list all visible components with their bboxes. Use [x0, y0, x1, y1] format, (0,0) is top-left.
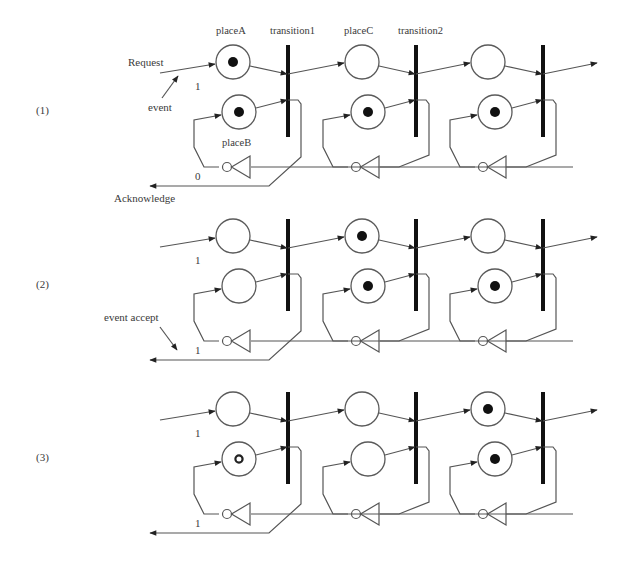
arc-transition-output	[288, 410, 344, 421]
arc-lower-to-transition	[512, 447, 542, 455]
upper-place	[345, 45, 379, 79]
stage-2: (2)11	[36, 219, 597, 360]
inverter-bubble	[223, 337, 232, 346]
stage-label: (2)	[36, 278, 49, 291]
arc-lower-to-transition	[256, 274, 287, 282]
stage-label: (3)	[36, 451, 49, 464]
token	[363, 281, 373, 291]
column-3	[380, 219, 597, 352]
inverter-feedback-arc	[194, 289, 221, 341]
arc-transition-output	[543, 63, 597, 74]
event-pointer-arrow	[162, 76, 178, 98]
inverter-feedback-arc	[450, 115, 477, 167]
column-2	[251, 392, 470, 525]
hollow-token	[235, 455, 242, 462]
feedback-to-prev-inverter	[251, 447, 429, 514]
event-accept-pointer-arrow	[160, 327, 177, 350]
arc-transition-output	[416, 237, 470, 248]
arc-upper-to-transition	[505, 413, 542, 421]
arc-lower-to-transition	[385, 274, 415, 282]
ack-value: 1	[195, 344, 201, 356]
arc-upper-to-transition	[250, 240, 287, 248]
column-2	[251, 45, 470, 178]
stage-3: (3)11	[36, 392, 597, 533]
inverter-triangle	[232, 503, 251, 525]
arc-upper-to-transition	[250, 66, 287, 74]
arc-lower-to-transition	[512, 100, 542, 108]
feedback-to-prev-inverter	[251, 274, 429, 341]
upper-place	[216, 392, 250, 426]
arc-lower-to-transition	[512, 274, 542, 282]
arc-upper-to-transition	[505, 66, 542, 74]
lower-place	[222, 269, 256, 303]
inverter-feedback-arc	[450, 289, 477, 341]
token	[357, 231, 367, 241]
token	[483, 404, 493, 414]
arc-lower-to-transition	[385, 100, 415, 108]
input-arc	[160, 64, 215, 73]
arc-transition-output	[416, 63, 470, 74]
ack-value: 0	[195, 170, 201, 182]
label-placeC: placeC	[344, 25, 373, 36]
upper-place	[345, 392, 379, 426]
arc-transition-output	[416, 410, 470, 421]
ack-value: 1	[195, 517, 201, 529]
label-placeB: placeB	[222, 137, 251, 148]
upper-place	[471, 45, 505, 79]
arc-upper-to-transition	[250, 413, 287, 421]
feedback-to-prev-inverter	[380, 274, 556, 341]
inverter-triangle	[232, 330, 251, 352]
petri-net-figure: placeA transition1 placeC transition2 Re…	[0, 0, 630, 571]
lower-place	[351, 442, 385, 476]
inverter-feedback-arc	[194, 462, 221, 514]
feedback-to-prev-inverter	[380, 447, 556, 514]
inverter-feedback-arc	[323, 115, 350, 167]
label-placeA: placeA	[216, 25, 246, 36]
label-transition2: transition2	[398, 25, 443, 36]
stage-label: (1)	[36, 104, 49, 117]
column-1	[150, 219, 344, 360]
arc-lower-to-transition	[256, 100, 287, 108]
feedback-to-prev-inverter	[251, 100, 429, 167]
label-request: Request	[128, 56, 163, 68]
token	[490, 107, 500, 117]
input-value: 1	[195, 427, 201, 439]
inverter-feedback-arc	[323, 462, 350, 514]
column-1	[150, 45, 344, 186]
token	[363, 107, 373, 117]
token	[490, 454, 500, 464]
diagram-svg: placeA transition1 placeC transition2 Re…	[0, 0, 630, 571]
token	[490, 281, 500, 291]
label-event: event	[148, 101, 172, 113]
label-event-accept: event accept	[104, 311, 159, 323]
column-3	[380, 45, 597, 178]
label-transition1: transition1	[270, 25, 315, 36]
input-value: 1	[195, 80, 201, 92]
inverter-triangle	[232, 156, 251, 178]
inverter-bubble	[223, 163, 232, 172]
inverter-feedback-arc	[194, 115, 221, 167]
stage-1: (1)10	[36, 45, 597, 186]
column-1	[150, 392, 344, 533]
column-3	[380, 392, 597, 525]
arc-upper-to-transition	[505, 240, 542, 248]
column-2	[251, 219, 470, 352]
arc-transition-output	[543, 410, 597, 421]
inverter-feedback-arc	[450, 462, 477, 514]
arc-upper-to-transition	[379, 66, 415, 74]
token	[228, 57, 238, 67]
arc-lower-to-transition	[385, 447, 415, 455]
arc-upper-to-transition	[379, 413, 415, 421]
inverter-bubble	[223, 510, 232, 519]
input-arc	[160, 238, 215, 247]
feedback-to-prev-inverter	[380, 100, 556, 167]
arc-upper-to-transition	[379, 240, 415, 248]
token	[234, 107, 244, 117]
arc-transition-output	[543, 237, 597, 248]
arc-lower-to-transition	[256, 447, 287, 455]
input-arc	[160, 411, 215, 420]
input-value: 1	[195, 254, 201, 266]
arc-transition-output	[288, 63, 344, 74]
upper-place	[471, 219, 505, 253]
upper-place	[216, 219, 250, 253]
